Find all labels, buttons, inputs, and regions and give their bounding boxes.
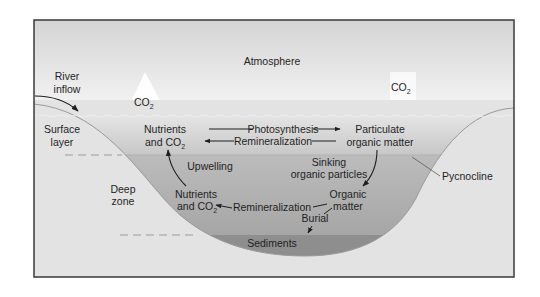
sinking-label: Sinking bbox=[312, 156, 347, 168]
remineralization-deep-label: Remineralization bbox=[233, 201, 311, 213]
nutrients-surface-label-line2: and CO2 bbox=[145, 136, 185, 150]
remineralization-surface-label: Remineralization bbox=[234, 135, 312, 147]
deep-zone-label: Deep bbox=[110, 183, 135, 195]
sediments-label: Sediments bbox=[247, 237, 297, 249]
burial-label: Burial bbox=[302, 212, 329, 224]
deep-zone-label-line2: zone bbox=[112, 195, 135, 207]
pycnocline-label: Pycnocline bbox=[442, 170, 493, 182]
surface-layer-label-line2: layer bbox=[51, 136, 74, 148]
organic-matter-label-line2: matter bbox=[333, 200, 363, 212]
photosynthesis-label: Photosynthesis bbox=[247, 123, 318, 135]
sinking-label-line2: organic particles bbox=[291, 168, 367, 180]
particulate-organic-matter-label: Particulate bbox=[355, 123, 405, 135]
atmosphere-label: Atmosphere bbox=[244, 55, 301, 67]
upwelling-label: Upwelling bbox=[187, 160, 233, 172]
organic-matter-label: Organic bbox=[330, 188, 367, 200]
nutrients-deep-label-line2: and CO2 bbox=[177, 200, 217, 214]
nutrients-surface-label: Nutrients bbox=[144, 123, 186, 135]
nutrients-deep-label: Nutrients bbox=[175, 188, 217, 200]
river-inflow-label-line2: inflow bbox=[54, 83, 81, 95]
particulate-organic-matter-label-line2: organic matter bbox=[346, 136, 414, 148]
river-inflow-label: River bbox=[55, 70, 80, 82]
ocean-carbon-cycle-diagram: Atmosphere River inflow CO2 CO2 Surface … bbox=[0, 0, 540, 297]
surface-layer-label: Surface bbox=[44, 123, 80, 135]
